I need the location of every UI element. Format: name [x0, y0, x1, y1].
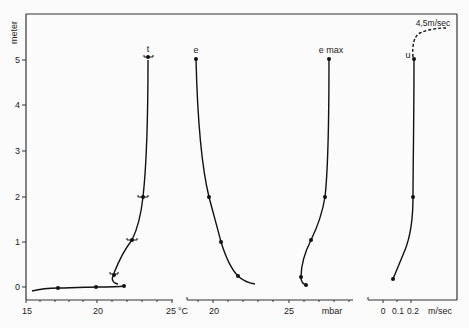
- u-top-label: 4,5m/sec: [416, 18, 451, 28]
- series-e-label: e: [193, 45, 198, 55]
- series-emax-points: [299, 57, 331, 287]
- series-e-points: [194, 57, 240, 278]
- u-tick-0-1: 0.1: [392, 306, 404, 316]
- y-tick-labels: 0 1 2 3 4 5: [15, 55, 20, 292]
- temp-tick-labels: 15 20 25: [22, 306, 176, 316]
- series-e: [196, 59, 255, 284]
- temp-tick-25: 25: [166, 306, 176, 316]
- e-tick-20: 20: [209, 306, 219, 316]
- series-emax: [301, 59, 329, 285]
- temp-unit-label: °C: [178, 306, 189, 316]
- series-u-label: u: [405, 50, 410, 60]
- x-axis-temperature: [26, 300, 173, 303]
- y-tick-4: 4: [15, 100, 20, 110]
- e-tick-labels: 20 25: [209, 306, 294, 316]
- u-unit-label: m/sec: [428, 306, 453, 316]
- u-tick-0-2: 0.2: [407, 306, 419, 316]
- u-tick-0: 0: [381, 306, 386, 316]
- series-t-label: t: [147, 44, 150, 54]
- y-tick-2: 2: [15, 192, 20, 202]
- temp-tick-15: 15: [22, 306, 32, 316]
- series-u: [393, 59, 414, 279]
- y-tick-1: 1: [15, 237, 20, 247]
- y-tick-5: 5: [15, 55, 20, 65]
- u-tick-labels: 0 0.1 0.2: [381, 306, 420, 316]
- series-u-dashed-extension: [413, 28, 446, 57]
- plot-frame: [26, 14, 457, 300]
- y-axis-label: meter: [9, 21, 19, 44]
- series-u-points: [391, 57, 416, 281]
- x-axis-vapour-pressure: [187, 297, 353, 303]
- temp-tick-20: 20: [93, 306, 103, 316]
- series-emax-label: e max: [319, 45, 344, 55]
- e-tick-25: 25: [284, 306, 294, 316]
- y-tick-3: 3: [15, 146, 20, 156]
- x-axis-wind-speed: [368, 297, 457, 303]
- y-tick-0: 0: [15, 282, 20, 292]
- e-unit-label: mbar: [322, 306, 343, 316]
- series-t-points: [56, 55, 150, 290]
- series-t: [32, 60, 148, 291]
- profile-chart: 0 1 2 3 4 5 meter 15 20 25 °C: [0, 0, 469, 328]
